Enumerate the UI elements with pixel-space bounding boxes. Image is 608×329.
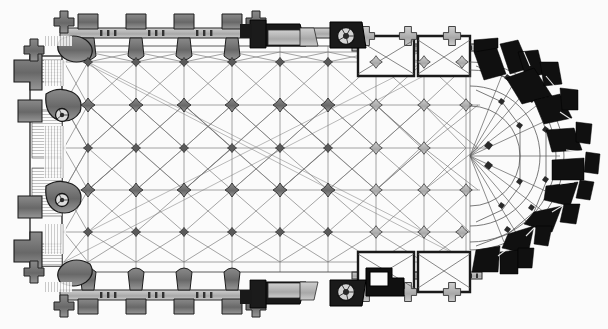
architectural-plan-figure: Gothic cathedral ground plan Engraved ar…: [0, 0, 608, 329]
cathedral-floor-plan: [0, 0, 608, 329]
plate-tone-overlay: [0, 0, 608, 329]
